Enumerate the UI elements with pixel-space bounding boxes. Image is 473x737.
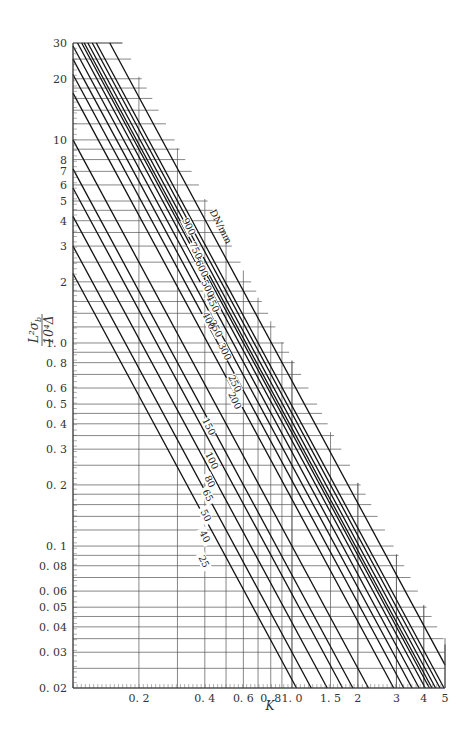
dn-line-300 bbox=[73, 46, 419, 688]
y-tick-label: 3 bbox=[60, 240, 67, 253]
dn-line-40 bbox=[73, 246, 311, 688]
dn-label-300: 300 bbox=[216, 341, 234, 362]
dn-label-600: 600 bbox=[193, 258, 211, 279]
x-axis-title: K bbox=[265, 699, 276, 713]
y-tick-label: 0. 2 bbox=[46, 479, 67, 492]
y-tick-label: 7 bbox=[60, 165, 67, 178]
dn-label-100: 100 bbox=[203, 450, 221, 471]
dn-line-250 bbox=[73, 59, 412, 688]
y-tick-label: 0. 3 bbox=[46, 443, 67, 456]
y-tick-label: 6 bbox=[60, 179, 67, 192]
y-tick-label: 0. 06 bbox=[39, 585, 67, 598]
legend-title: DN/mm bbox=[208, 207, 235, 245]
dn-line-900 bbox=[110, 43, 445, 665]
y-tick-label: 0. 04 bbox=[39, 621, 67, 634]
y-axis-title-denominator: 10⁴Δ bbox=[42, 316, 56, 345]
dn-line-50 bbox=[73, 216, 327, 688]
y-tick-label: 5 bbox=[60, 195, 67, 208]
x-tick-label: 0. 6 bbox=[233, 692, 254, 705]
x-tick-label: 1. 0 bbox=[281, 692, 302, 705]
y-tick-label: 2 bbox=[60, 276, 67, 289]
x-tick-label: 1. 5 bbox=[320, 692, 341, 705]
x-tick-label: 2 bbox=[354, 692, 361, 705]
dn-line-65 bbox=[73, 188, 343, 688]
x-tick-label: 3 bbox=[393, 692, 400, 705]
y-tick-label: 0. 03 bbox=[39, 646, 67, 659]
y-tick-label: 0. 05 bbox=[39, 601, 67, 614]
dn-line-25 bbox=[73, 273, 296, 688]
y-tick-label: 0. 1 bbox=[46, 540, 67, 553]
nomogram-chart: 9007506005004504003503002502001501008065… bbox=[0, 0, 473, 737]
x-tick-label: 0. 2 bbox=[128, 692, 149, 705]
x-tick-label: 0. 4 bbox=[194, 692, 215, 705]
y-tick-label: 0. 08 bbox=[39, 560, 67, 573]
y-tick-label: 20 bbox=[53, 73, 67, 86]
y-tick-label: 0. 02 bbox=[39, 682, 67, 695]
y-tick-label: 10 bbox=[53, 134, 67, 147]
x-tick-label: 4 bbox=[420, 692, 427, 705]
y-tick-label: 0. 4 bbox=[46, 418, 67, 431]
y-tick-label: 30 bbox=[53, 37, 67, 50]
y-axis-title-numerator: L²σb bbox=[27, 317, 43, 344]
y-tick-label: 4 bbox=[60, 215, 67, 228]
y-tick-label: 8 bbox=[60, 154, 67, 167]
y-axis-title: L²σb 10⁴Δ bbox=[27, 314, 56, 346]
y-tick-label: 0. 6 bbox=[46, 382, 67, 395]
x-tick-label: 5 bbox=[442, 692, 449, 705]
y-tick-label: 0. 8 bbox=[46, 357, 67, 370]
y-tick-label: 0. 5 bbox=[46, 398, 67, 411]
dn-label-200: 200 bbox=[226, 390, 244, 411]
